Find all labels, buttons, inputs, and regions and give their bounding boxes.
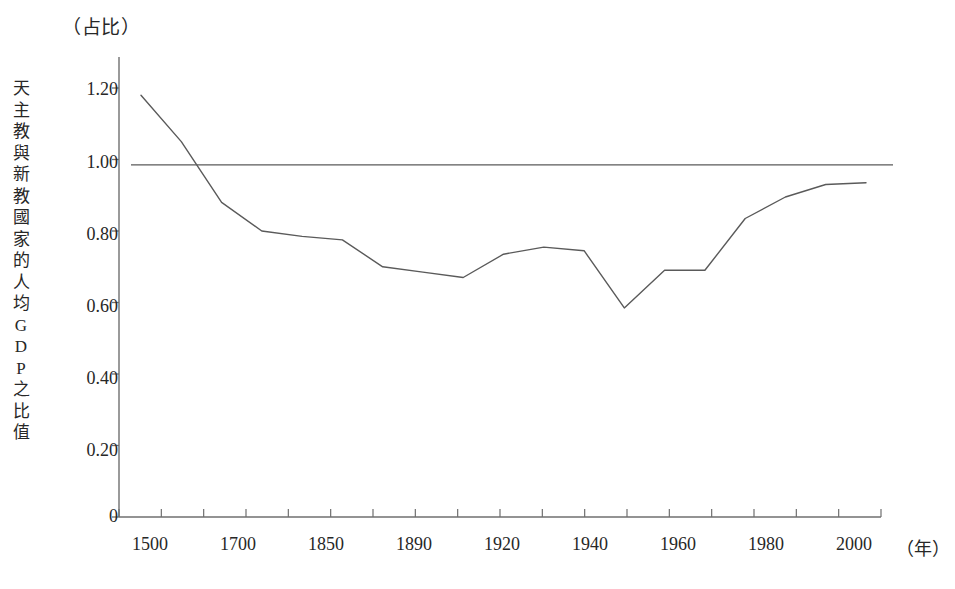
- x-tick-label: 1980: [731, 534, 801, 555]
- plot-area: [0, 0, 955, 589]
- x-tick-label: 1920: [467, 534, 537, 555]
- x-tick-label: 1940: [555, 534, 625, 555]
- y-tick-label: 0.40: [56, 368, 118, 389]
- y-tick-label: 0.20: [56, 440, 118, 461]
- x-tick-label: 1850: [291, 534, 361, 555]
- x-tick-label: 2000: [819, 534, 889, 555]
- axes: [119, 57, 881, 517]
- y-tick-label: 1.00: [56, 152, 118, 173]
- x-tick-marks: [119, 509, 881, 517]
- y-tick-label: 0.60: [56, 296, 118, 317]
- x-axis-unit-caption: （年）: [896, 534, 950, 560]
- x-tick-label: 1700: [203, 534, 273, 555]
- x-tick-label: 1960: [643, 534, 713, 555]
- x-tick-label: 1890: [379, 534, 449, 555]
- data-series-line: [141, 95, 866, 308]
- y-tick-label: 1.20: [56, 79, 118, 100]
- y-tick-label: 0.80: [56, 224, 118, 245]
- chart-figure: （占比） 天 主 教 與 新 教 國 家 的 人 均 G D P 之 比 值 1…: [0, 0, 955, 589]
- y-tick-label: 0: [56, 506, 118, 527]
- x-tick-label: 1500: [115, 534, 185, 555]
